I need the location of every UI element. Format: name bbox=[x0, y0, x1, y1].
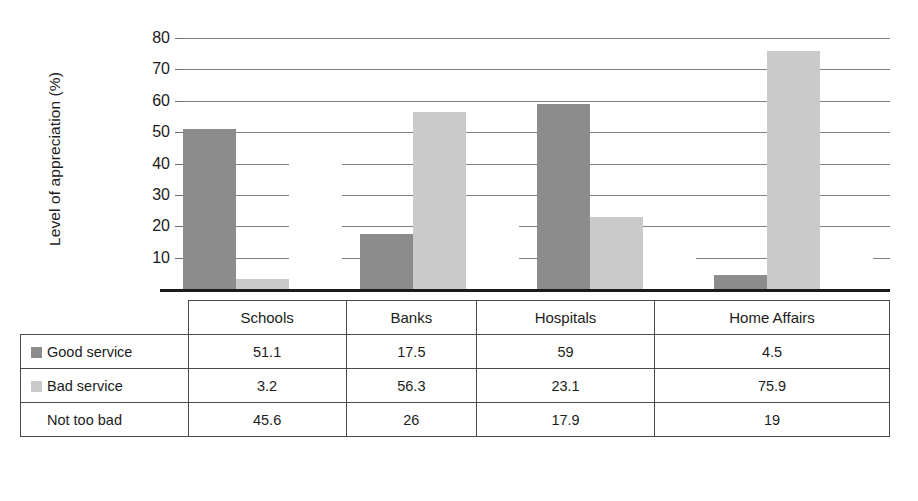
table-row: Good service51.117.5594.5 bbox=[21, 335, 890, 369]
cell-1-1: 56.3 bbox=[346, 369, 476, 403]
bar-schools-not-too-bad bbox=[289, 146, 342, 289]
bar-home-affairs-not-too-bad bbox=[820, 229, 873, 289]
x-axis-baseline bbox=[160, 289, 890, 292]
cell-1-0: 3.2 bbox=[188, 369, 346, 403]
cell-0-0: 51.1 bbox=[188, 335, 346, 369]
row-label-text: Not too bad bbox=[47, 412, 122, 428]
row-label-text: Bad service bbox=[47, 378, 123, 394]
table-header-row: Schools Banks Hospitals Home Affairs bbox=[21, 301, 890, 335]
row-label-not-too-bad: Not too bad bbox=[21, 403, 189, 437]
bar-hospitals-good-service bbox=[537, 104, 590, 289]
column-header-hospitals: Hospitals bbox=[477, 301, 655, 335]
table-row: Bad service3.256.323.175.9 bbox=[21, 369, 890, 403]
cell-2-1: 26 bbox=[346, 403, 476, 437]
row-label-text: Good service bbox=[47, 344, 132, 360]
bar-banks-not-too-bad bbox=[466, 207, 519, 289]
plot-area: Level of appreciation (%) 10203040506070… bbox=[0, 0, 918, 300]
column-header-banks: Banks bbox=[346, 301, 476, 335]
cell-2-3: 19 bbox=[655, 403, 890, 437]
cell-1-3: 75.9 bbox=[655, 369, 890, 403]
row-label-good-service: Good service bbox=[21, 335, 189, 369]
cell-0-2: 59 bbox=[477, 335, 655, 369]
bar-banks-good-service bbox=[360, 234, 413, 289]
cell-2-2: 17.9 bbox=[477, 403, 655, 437]
column-header-schools: Schools bbox=[188, 301, 346, 335]
legend-swatch-icon bbox=[31, 381, 42, 392]
cell-2-0: 45.6 bbox=[188, 403, 346, 437]
bar-home-affairs-good-service bbox=[714, 275, 767, 289]
cell-0-3: 4.5 bbox=[655, 335, 890, 369]
row-label-bad-service: Bad service bbox=[21, 369, 189, 403]
legend-swatch-icon bbox=[31, 347, 42, 358]
bar-schools-bad-service bbox=[236, 279, 289, 289]
bar-hospitals-bad-service bbox=[590, 217, 643, 289]
data-table: Schools Banks Hospitals Home Affairs Goo… bbox=[20, 300, 890, 437]
bar-hospitals-not-too-bad bbox=[643, 233, 696, 289]
table-row: Not too bad45.62617.919 bbox=[21, 403, 890, 437]
legend-swatch-icon bbox=[31, 415, 42, 426]
cell-1-2: 23.1 bbox=[477, 369, 655, 403]
bar-home-affairs-bad-service bbox=[767, 51, 820, 289]
cell-0-1: 17.5 bbox=[346, 335, 476, 369]
table-corner-cell bbox=[21, 301, 189, 335]
chart-figure: Level of appreciation (%) 10203040506070… bbox=[0, 0, 918, 501]
bar-schools-good-service bbox=[183, 129, 236, 289]
column-header-home-affairs: Home Affairs bbox=[655, 301, 890, 335]
bar-series-layer bbox=[0, 0, 918, 290]
bar-banks-bad-service bbox=[413, 112, 466, 289]
